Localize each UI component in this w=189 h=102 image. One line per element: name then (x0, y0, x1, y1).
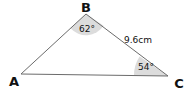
triangle-diagram: B A C 62° 54° 9.6cm (0, 0, 189, 102)
side-ab (21, 14, 86, 74)
vertex-label-a: A (9, 74, 19, 89)
vertex-label-b: B (81, 0, 91, 15)
side-length-bc: 9.6cm (124, 35, 152, 45)
vertex-label-c: C (174, 76, 184, 91)
side-bc (86, 14, 168, 76)
angle-label-b: 62° (79, 24, 95, 34)
angle-label-c: 54° (138, 62, 154, 72)
